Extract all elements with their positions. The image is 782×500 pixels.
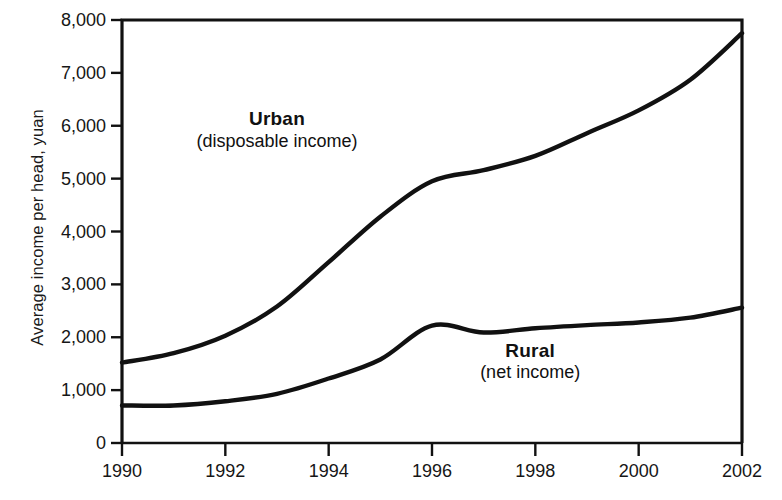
income-line-chart: Average income per head, yuan 01,0002,00… [0,0,782,500]
plot-frame [122,20,742,443]
series-line-urban [122,33,742,362]
series-lines [122,33,742,406]
plot-canvas [0,0,782,500]
series-line-rural [122,308,742,406]
axis-ticks [111,20,742,456]
